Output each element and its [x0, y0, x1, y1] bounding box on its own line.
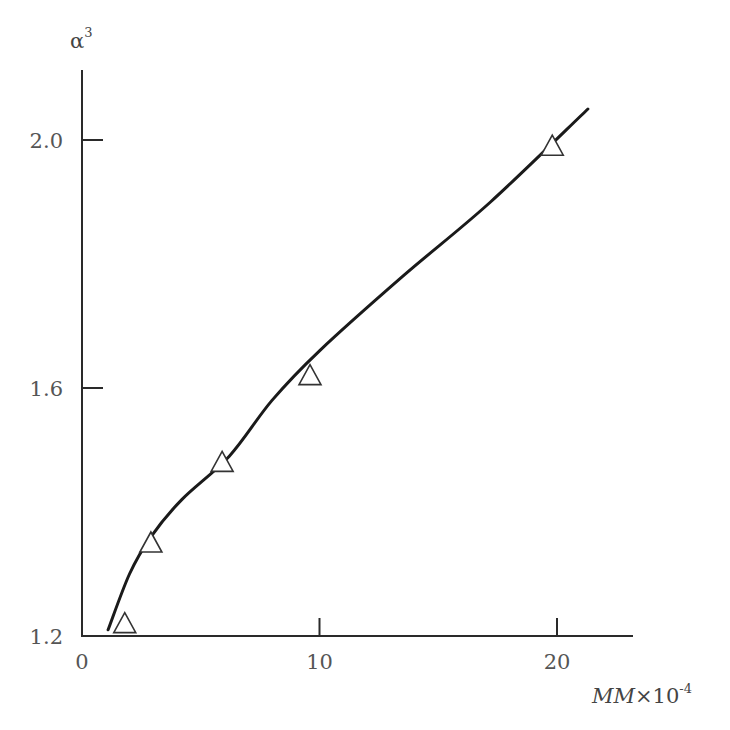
y-tick-label: 1.6	[30, 377, 63, 401]
data-markers	[114, 135, 564, 632]
x-ticks: 01020	[75, 618, 570, 674]
x-tick-label: 10	[306, 650, 333, 674]
y-tick-label: 2.0	[30, 129, 63, 153]
chart: 01020 1.21.62.0 α3 MM×10-4	[0, 0, 730, 730]
triangle-marker-icon	[140, 532, 162, 552]
triangle-marker-icon	[114, 613, 136, 633]
y-ticks: 1.21.62.0	[30, 129, 103, 649]
triangle-marker-icon	[541, 135, 563, 155]
x-tick-label: 20	[544, 650, 571, 674]
fitted-curve	[108, 109, 588, 630]
y-tick-label: 1.2	[30, 625, 63, 649]
x-axis-title: MM×10-4	[591, 681, 692, 708]
x-tick-label: 0	[75, 650, 88, 674]
y-axis-title: α3	[70, 25, 92, 53]
